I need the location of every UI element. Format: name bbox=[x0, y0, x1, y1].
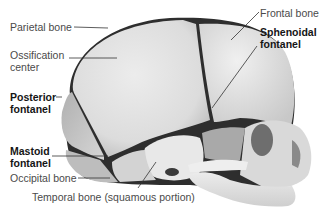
orbit bbox=[251, 124, 273, 156]
label-temporal-bone: Temporal bone (squamous portion) bbox=[32, 192, 195, 203]
label-posterior-fontanel-line2: fontanel bbox=[10, 104, 51, 115]
label-mastoid-fontanel-line2: fontanel bbox=[10, 158, 51, 169]
face-region bbox=[240, 121, 311, 189]
sphenoid-bone bbox=[202, 127, 245, 161]
label-ossification-center-line1: Ossification bbox=[10, 50, 64, 61]
ear-canal bbox=[165, 168, 179, 176]
label-mastoid-fontanel-line1: Mastoid bbox=[10, 146, 50, 157]
leader-parietal bbox=[74, 27, 108, 28]
label-posterior-fontanel-line1: Posterior bbox=[10, 92, 56, 103]
label-sphenoidal-fontanel-line1: Sphenoidal bbox=[260, 27, 317, 38]
fetal-skull-diagram: Parietal bone Ossification center Poster… bbox=[0, 0, 328, 216]
label-occipital-bone: Occipital bone bbox=[10, 173, 77, 184]
label-sphenoidal-fontanel-line2: fontanel bbox=[260, 39, 301, 50]
label-parietal-bone: Parietal bone bbox=[10, 22, 72, 33]
label-frontal-bone: Frontal bone bbox=[260, 8, 319, 19]
label-ossification-center-line2: center bbox=[10, 62, 39, 73]
